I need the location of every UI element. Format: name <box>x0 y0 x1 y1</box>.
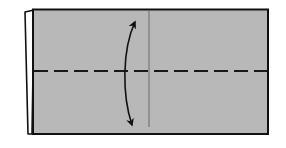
origami-diagram <box>0 0 286 148</box>
paper-sheet <box>33 10 268 135</box>
